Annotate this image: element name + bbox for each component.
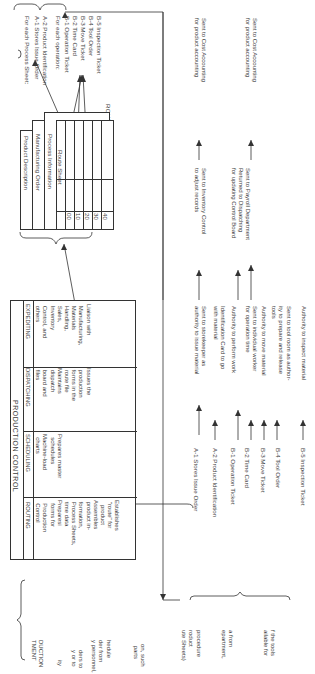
flow-dest-a1: Sent to Inventory Control to adjust reco… xyxy=(193,168,207,234)
flow-use-b1: Authority to perform work xyxy=(230,306,237,373)
partial-heading: DUCTION TMENT xyxy=(30,640,44,667)
partial-fragment-2: ders to y or to xyxy=(70,650,84,668)
flow-form-b3: B-3 Move Ticket xyxy=(260,448,267,492)
op-number-40: 40 xyxy=(102,213,109,220)
form-a1: A-1 Stores Issue Order xyxy=(34,16,41,79)
operation-header: For each operation: xyxy=(55,16,62,70)
production-control-title: PRODUCTION CONTROL xyxy=(12,400,19,492)
partial-fragment-1: ity xyxy=(56,660,63,666)
col-header-routing: ROUTING xyxy=(24,502,31,529)
col-text-dispatching: Issues the production forms in the route… xyxy=(34,368,92,401)
flow-form-a2: A-2 Product Identification xyxy=(212,448,219,517)
flow-dest-b2: Sent to Payroll Department xyxy=(244,168,251,240)
form-b5: B-5 Inspection Ticket xyxy=(96,16,103,73)
flow-final-b2: Sent to Cost Accounting for product acco… xyxy=(244,18,258,82)
partial-fragment-4: on, such parts xyxy=(132,644,146,667)
flow-use-b2: Sent to individual worker for operation … xyxy=(244,306,258,371)
col-header-scheduling: SCHEDULING xyxy=(24,434,31,472)
flow-use-b5: Authority to inspect material xyxy=(300,306,307,380)
op-number-30: 30 xyxy=(93,213,100,220)
form-b4: B-4 Tool Order xyxy=(88,16,95,56)
route-sheet-label-route-sheet: Route Sheet xyxy=(57,150,64,184)
diagram-canvas: ROUTE FILE Product Description Manufactu… xyxy=(0,0,315,674)
form-a2: A-2 Product Identification xyxy=(42,16,49,85)
flow-form-b2: B-2 Time Card xyxy=(244,448,251,488)
flow-form-b4: B-4 Tool Order xyxy=(275,448,282,488)
op-number-20: 20 xyxy=(84,213,91,220)
partial-fragment-6: a from epartment, xyxy=(220,630,234,659)
col-text-scheduling: Prepares master schedules Machine-load c… xyxy=(34,434,63,478)
col-text-expediting: Liaison with Manufacturing, Materials Ha… xyxy=(34,304,92,345)
flow-form-b1: B-1 Operation Ticket xyxy=(230,448,237,504)
flow-final-a1: Sent to Cost Accounting for product acco… xyxy=(193,18,207,82)
route-sheet-label-manufacturing-order: Manufacturing Order xyxy=(35,134,42,191)
form-b2: B-2 Time Card xyxy=(72,16,79,56)
route-sheet-label-product-description: Product Description xyxy=(23,136,30,190)
flow-form-a1: A-1 Stores Issue Order xyxy=(193,448,200,511)
op-number-00: 00 xyxy=(66,213,73,220)
partial-fragment-7: f the tools ailable for xyxy=(262,630,276,656)
flow-use-b3: Authority to move material xyxy=(260,306,267,376)
process-sheet-header: For each Process Sheet: xyxy=(24,16,31,84)
flow-use-a2: Identification Card to go with material xyxy=(212,306,226,369)
op-number-10: 10 xyxy=(75,213,82,220)
form-b3: B-3 Move Ticket xyxy=(80,16,87,60)
flow-use-a1: Sent to storekeeper as authority to issu… xyxy=(193,306,207,374)
form-b1: B-1 Operation Ticket xyxy=(64,16,71,72)
flow-form-b5: B-5 Inspection Ticket xyxy=(300,448,307,505)
col-header-dispatching: DISPATCHING xyxy=(24,368,31,407)
partial-fragment-5: procedure roduct ute Sheets) xyxy=(180,630,202,661)
col-header-expediting: EXPEDITING xyxy=(24,304,31,339)
route-sheet-label-process-information: Process Information xyxy=(47,134,54,189)
col-text-routing: Establishes "route" for product Assemble… xyxy=(34,500,120,545)
flow-dest-b1: Returned to Dispatching for updating Con… xyxy=(230,168,244,238)
partial-fragment-3: hedule der from y personnel, xyxy=(90,640,112,673)
flow-use-b4: Sent to tool room as author- ity to prep… xyxy=(270,306,292,380)
